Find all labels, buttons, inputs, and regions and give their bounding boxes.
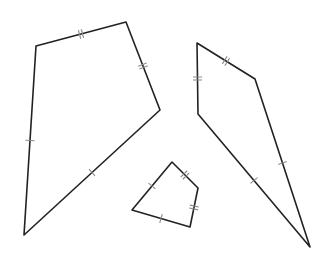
- large-kite-left: [24, 22, 160, 235]
- quadrilateral-outline: [132, 162, 198, 227]
- congruence-tick-mark: [26, 140, 35, 141]
- quadrilateral-outline: [197, 43, 310, 247]
- kite-diagram: [0, 0, 322, 260]
- small-kite-middle: [132, 162, 199, 227]
- kite-right: [193, 43, 310, 247]
- quadrilateral-outline: [24, 22, 160, 235]
